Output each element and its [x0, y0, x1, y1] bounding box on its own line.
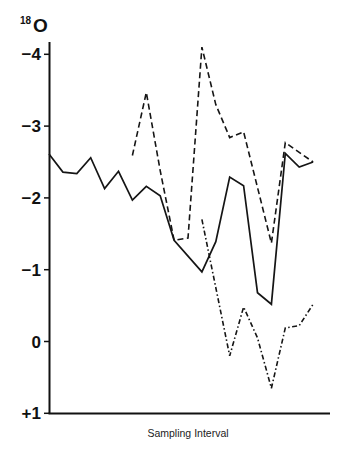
ylabel-main: O: [33, 15, 48, 36]
y-tick-label: −2: [22, 189, 41, 208]
ylabel-superscript: 18: [20, 15, 32, 26]
chart: 18 O −4−3−2−10+1 Sampling Interval: [0, 0, 339, 451]
y-tick-label: −1: [22, 261, 41, 280]
series-group: [49, 47, 313, 388]
y-axis-title: 18 O: [20, 15, 48, 36]
y-tick-label: +1: [22, 404, 41, 423]
series-line-dashed: [132, 47, 313, 243]
y-tick-label: 0: [32, 333, 41, 352]
series-line-dash-dot: [202, 219, 313, 388]
y-tick-label: −4: [22, 45, 42, 64]
y-ticks: −4−3−2−10+1: [22, 45, 50, 423]
y-tick-label: −3: [22, 117, 41, 136]
x-axis-label: Sampling Interval: [147, 427, 228, 439]
